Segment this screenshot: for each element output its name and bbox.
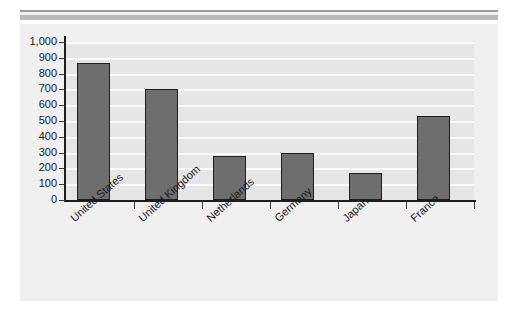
- y-tick-mark: [59, 200, 65, 201]
- gridline: [66, 137, 474, 139]
- y-tick-label-wrap: 700: [10, 83, 57, 94]
- y-tick-label-wrap: 500: [10, 115, 57, 126]
- y-axis-line: [64, 36, 66, 202]
- y-tick-label-wrap: 0: [10, 194, 57, 205]
- y-tick-mark: [59, 58, 65, 59]
- y-tick-mark: [59, 153, 65, 154]
- gridline: [66, 184, 474, 186]
- bar-chart-figure: 01002003004005006007008009001,000 United…: [0, 0, 514, 314]
- gridline: [66, 58, 474, 60]
- y-tick-label-wrap: 900: [10, 52, 57, 63]
- gridline: [66, 121, 474, 123]
- y-tick-mark: [59, 74, 65, 75]
- y-tick-mark: [59, 42, 65, 43]
- y-tick-label: 300: [13, 147, 57, 158]
- gridline: [66, 105, 474, 107]
- y-tick-label: 100: [13, 178, 57, 189]
- y-tick-label: 800: [13, 68, 57, 79]
- y-tick-label-wrap: 200: [10, 162, 57, 173]
- y-tick-label-wrap: 300: [10, 147, 57, 158]
- y-tick-label: 0: [13, 194, 57, 205]
- y-tick-mark: [59, 184, 65, 185]
- y-tick-mark: [59, 137, 65, 138]
- bar: [417, 116, 450, 200]
- y-tick-label: 700: [13, 83, 57, 94]
- y-tick-label: 200: [13, 162, 57, 173]
- y-tick-label-wrap: 1,000: [10, 36, 57, 47]
- y-tick-label: 500: [13, 115, 57, 126]
- y-tick-mark: [59, 105, 65, 106]
- gridline: [66, 168, 474, 170]
- x-tick-mark: [406, 202, 407, 209]
- plot-area: [66, 42, 474, 200]
- y-tick-mark: [59, 89, 65, 90]
- y-tick-label: 400: [13, 131, 57, 142]
- x-tick-mark: [270, 202, 271, 209]
- y-tick-label-wrap: 400: [10, 131, 57, 142]
- top-rule-band: [20, 10, 498, 23]
- y-tick-label: 900: [13, 52, 57, 63]
- y-tick-label-wrap: 800: [10, 68, 57, 79]
- y-tick-label: 600: [13, 99, 57, 110]
- gridline: [66, 153, 474, 155]
- gridline: [66, 89, 474, 91]
- x-tick-mark: [474, 202, 475, 209]
- x-tick-mark: [134, 202, 135, 209]
- y-tick-mark: [59, 121, 65, 122]
- bar: [349, 173, 382, 200]
- y-tick-label-wrap: 100: [10, 178, 57, 189]
- x-tick-mark: [338, 202, 339, 209]
- y-tick-label-wrap: 600: [10, 99, 57, 110]
- bar: [77, 63, 110, 200]
- y-tick-mark: [59, 168, 65, 169]
- x-tick-mark: [202, 202, 203, 209]
- gridline: [66, 42, 474, 44]
- top-rule-thick: [20, 15, 498, 20]
- gridline: [66, 74, 474, 76]
- y-tick-label: 1,000: [13, 36, 57, 47]
